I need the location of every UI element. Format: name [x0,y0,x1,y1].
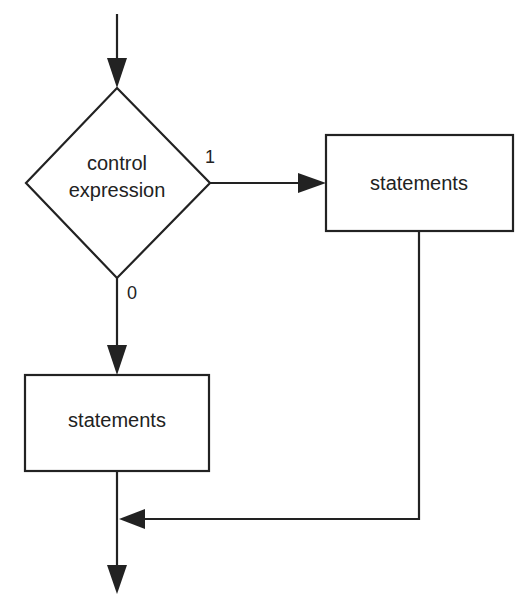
false-edge-label: 0 [127,283,137,303]
entry-arrowhead-icon [107,58,127,88]
flowchart-canvas: control expression statements statements… [0,0,528,616]
exit-arrowhead-icon [107,565,127,594]
false-statements-label: statements [68,409,166,431]
false-arrowhead-icon [107,345,127,375]
merge-arrowhead-icon [119,509,145,529]
decision-label-line1: control [87,152,147,174]
true-statements-label: statements [370,172,468,194]
true-arrowhead-icon [298,173,326,193]
true-edge-label: 1 [205,147,215,167]
decision-label-line2: expression [69,179,166,201]
